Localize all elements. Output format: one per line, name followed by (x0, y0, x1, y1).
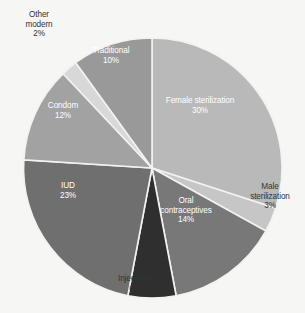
pie-label-traditional-name: Traditional (79, 46, 143, 56)
pie-label-injectable-value: 6% (93, 284, 177, 294)
pie-label-oral-contraceptives: Oral contraceptives 14% (148, 196, 224, 225)
pie-label-iud: IUD 23% (42, 181, 94, 200)
pie-label-male-sterilization-line2: sterilization (238, 192, 302, 202)
pie-label-injectable: Injectable 6% (93, 274, 177, 293)
pie-chart-svg (0, 0, 305, 313)
pie-label-condom-name: Condom (32, 101, 94, 111)
pie-label-male-sterilization-value: 3% (238, 201, 302, 211)
pie-label-other-modern: Other modern 2% (8, 10, 70, 39)
pie-label-oral-contraceptives-line2: contraceptives (148, 206, 224, 216)
pie-label-other-modern-line2: modern (8, 20, 70, 30)
pie-chart-figure: Other modern 2% Traditional 10% Female s… (0, 0, 305, 313)
pie-label-male-sterilization: Male sterilization 3% (238, 182, 302, 211)
pie-label-female-sterilization: Female sterilization 30% (146, 96, 254, 115)
pie-label-oral-contraceptives-line1: Oral (148, 196, 224, 206)
pie-label-other-modern-line1: Other (8, 10, 70, 20)
pie-label-male-sterilization-line1: Male (238, 182, 302, 192)
pie-label-iud-value: 23% (42, 191, 94, 201)
pie-label-oral-contraceptives-value: 14% (148, 215, 224, 225)
pie-label-condom: Condom 12% (32, 101, 94, 120)
pie-label-iud-name: IUD (42, 181, 94, 191)
pie-label-female-sterilization-value: 30% (146, 106, 254, 116)
pie-label-condom-value: 12% (32, 111, 94, 121)
pie-slices (24, 38, 282, 298)
pie-label-other-modern-value: 2% (8, 29, 70, 39)
pie-label-female-sterilization-name: Female sterilization (146, 96, 254, 106)
pie-label-traditional: Traditional 10% (79, 46, 143, 65)
pie-label-traditional-value: 10% (79, 56, 143, 66)
pie-label-injectable-name: Injectable (93, 274, 177, 284)
